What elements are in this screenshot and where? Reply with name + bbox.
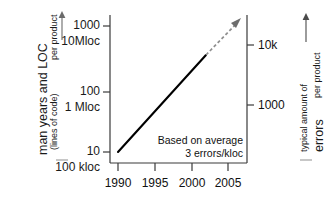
left-axis-title-per-product: per product [49,14,59,60]
annotation-line-2: 3 errors/kloc [140,147,243,160]
x-tick-label-2005: 2005 [206,177,250,189]
left-axis-title-sub: (lines of code) [49,93,59,150]
trend-line-projected [206,24,236,55]
right-axis-title-per-product: per product [312,52,322,98]
left-tick-label-100kloc: 100 kloc [10,160,100,174]
right-axis-title-main: errors [312,119,326,152]
right-axis-title-sub: typical amount of [299,84,309,152]
left-title-arrowhead-icon [59,11,66,18]
right-tick-label-10k: 10k [258,39,277,51]
trend-arrowhead [231,18,241,28]
chart-figure: 1000 10Mloc 100 1 Mloc 10 100 kloc 10k 1… [0,0,335,203]
annotation-line-1: Based on average [140,134,243,147]
right-title-arrowhead-icon [303,13,310,20]
annotation-basis: Based on average 3 errors/kloc [140,134,243,160]
right-tick-label-1000: 1000 [258,99,285,111]
left-axis-title-main: man years and LOC [36,43,50,155]
